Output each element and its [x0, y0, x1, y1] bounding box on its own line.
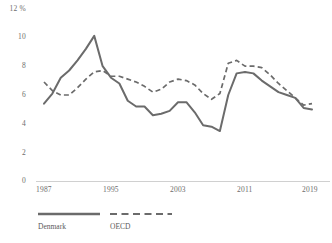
legend-label-denmark: Denmark	[38, 222, 66, 231]
plot-area	[0, 0, 332, 243]
line-series-denmark	[44, 36, 312, 131]
chart-container: 12 % 10 8 6 4 2 0 1987 1995 2003 2011 20…	[0, 0, 332, 243]
legend-label-oecd: OECD	[110, 222, 130, 231]
line-series-oecd	[44, 60, 312, 105]
